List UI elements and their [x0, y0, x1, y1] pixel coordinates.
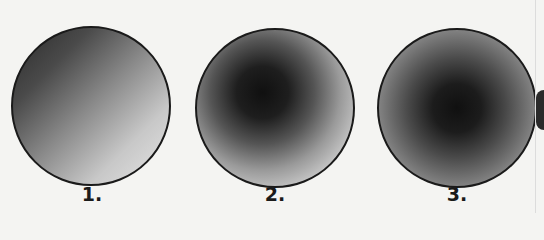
circle-1-label: 1.: [72, 183, 112, 205]
circle-2-offset-radial-shading: [195, 28, 355, 188]
circle-2-label: 2.: [255, 183, 295, 205]
circle-1-linear-shading: [11, 26, 171, 186]
circle-3-centered-radial-shading: [377, 28, 537, 188]
circle-3-label: 3.: [437, 183, 477, 205]
partial-shape-edge: [536, 90, 544, 130]
